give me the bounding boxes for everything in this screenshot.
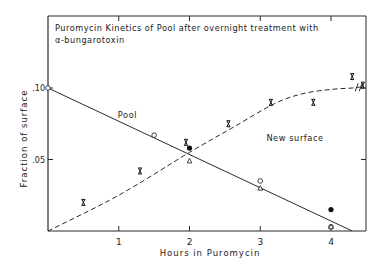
axis-ticks: 1234.05.10 <box>32 16 366 247</box>
x-marker <box>350 74 354 80</box>
x-axis-label: Hours in Puromycin <box>160 248 261 258</box>
x-tick-label: 1 <box>116 237 122 247</box>
x-marker <box>82 199 86 205</box>
y-tick-label: .05 <box>32 156 45 165</box>
x-marker <box>269 99 273 105</box>
x-tick-label: 2 <box>187 237 193 247</box>
y-tick-label: .10 <box>32 84 45 93</box>
plot-frame <box>48 16 366 231</box>
filled-circle-marker <box>187 145 192 150</box>
x-marker <box>184 139 188 145</box>
chart-title-line: α-bungarotoxin <box>55 35 125 45</box>
open-circle-marker <box>46 86 51 91</box>
pool-line <box>48 88 352 231</box>
pool-annotation: Pool <box>118 110 137 120</box>
new-surface-curve <box>48 87 363 231</box>
x-tick-label: 3 <box>257 237 263 247</box>
x-marker <box>227 121 231 127</box>
x-marker <box>138 168 142 174</box>
x-tick-label: 4 <box>328 237 334 247</box>
x-marker <box>312 99 316 105</box>
y-axis-label: Fraction of surface <box>19 90 29 188</box>
open-circle-marker <box>152 133 157 138</box>
chart-title-line: Puromycin Kinetics of Pool after overnig… <box>55 23 319 33</box>
triangle-marker <box>187 158 192 163</box>
chart: 1234.05.10 Puromycin Kinetics of Pool af… <box>0 0 385 268</box>
filled-circle-marker <box>328 207 333 212</box>
open-circle-marker <box>258 179 263 184</box>
new-surface-annotation: New surface <box>266 133 323 143</box>
data-markers <box>46 74 365 229</box>
triangle-marker <box>258 186 263 191</box>
series-lines <box>48 83 363 231</box>
